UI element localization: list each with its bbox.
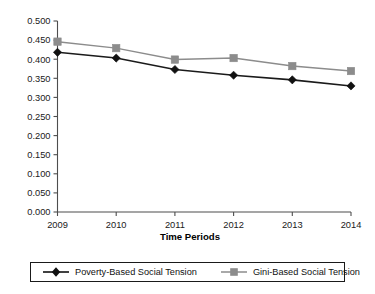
y-axis-tick-labels: 0.0000.0500.1000.1500.2000.2500.3000.350… [27,16,50,217]
x-tick-label: 2010 [106,220,127,230]
data-point-gini [347,67,354,74]
data-point-poverty [112,54,120,62]
x-axis: 200920102011201220132014 [47,212,361,230]
legend-item-poverty: Poverty-Based Social Tension [43,263,197,281]
legend-label-poverty: Poverty-Based Social Tension [75,267,197,277]
y-tick-label: 0.250 [27,112,50,122]
legend-marker-diamond-icon [43,266,69,278]
legend-label-gini: Gini-Based Social Tension [253,267,360,277]
y-tick-label: 0.100 [27,169,50,179]
data-point-poverty [230,71,238,79]
data-point-gini [230,54,237,61]
x-tick-label: 2009 [47,220,68,230]
data-point-poverty [53,48,61,56]
line-chart-plot: 0.0000.0500.1000.1500.2000.2500.3000.350… [0,0,375,294]
y-tick-label: 0.000 [27,207,50,217]
x-tick-label: 2013 [282,220,303,230]
x-axis-tick-labels: 200920102011201220132014 [47,220,361,230]
data-point-gini [171,56,178,63]
x-tick-label: 2014 [341,220,362,230]
data-point-gini [289,62,296,69]
x-tick-label: 2012 [223,220,244,230]
data-point-gini [54,38,61,45]
y-tick-label: 0.150 [27,150,50,160]
legend-item-gini: Gini-Based Social Tension [221,263,360,281]
y-tick-label: 0.200 [27,131,50,141]
data-point-poverty [347,82,355,90]
y-tick-label: 0.400 [27,55,50,65]
x-axis-ticks [58,212,352,216]
chart-legend: Poverty-Based Social Tension Gini-Based … [30,262,345,282]
y-tick-label: 0.300 [27,93,50,103]
series-line-poverty [58,52,352,86]
y-tick-label: 0.350 [27,74,50,84]
data-point-poverty [171,65,179,73]
chart-figure: 0.0000.0500.1000.1500.2000.2500.3000.350… [0,0,375,294]
legend-marker-square-icon [221,266,247,278]
y-tick-label: 0.050 [27,188,50,198]
x-axis-title: Time Periods [160,231,220,242]
data-point-gini [113,44,120,51]
y-tick-label: 0.500 [27,16,50,26]
y-tick-label: 0.450 [27,35,50,45]
data-point-poverty [288,76,296,84]
data-series-group [53,38,355,90]
y-axis: 0.0000.0500.1000.1500.2000.2500.3000.350… [27,16,57,217]
x-tick-label: 2011 [165,220,185,230]
